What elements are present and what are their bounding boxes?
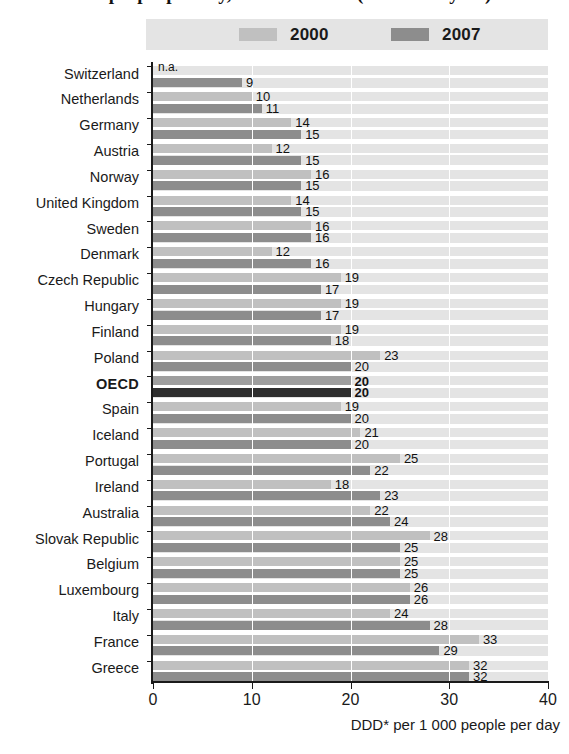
x-tick-label-0: 0 xyxy=(123,691,183,709)
bar-2007 xyxy=(153,181,301,190)
category-label-sweden: Sweden xyxy=(0,221,139,237)
bar-2000 xyxy=(153,144,272,153)
bar-2007 xyxy=(153,595,410,604)
bar-value-label-2007: 23 xyxy=(384,488,398,503)
bar-value-label-2007: 25 xyxy=(404,540,418,555)
bar-value-label-2007: 25 xyxy=(404,566,418,581)
x-tick-0 xyxy=(153,683,154,689)
bar-2007 xyxy=(153,491,380,500)
category-label-ireland: Ireland xyxy=(0,479,139,495)
x-tick-40 xyxy=(548,683,549,689)
gridline-10 xyxy=(252,62,253,682)
bar-value-label-2007: 26 xyxy=(414,592,428,607)
bar-2007 xyxy=(153,104,262,113)
category-label-italy: Italy xyxy=(0,608,139,624)
bar-2000 xyxy=(153,428,360,437)
bar-value-label-2000: 19 xyxy=(345,270,359,285)
bar-value-label-2007: 20 xyxy=(355,437,369,452)
bar-2007 xyxy=(153,233,311,242)
bar-value-label-2007: 16 xyxy=(315,256,329,271)
category-label-netherlands: Netherlands xyxy=(0,91,139,107)
x-tick-20 xyxy=(351,683,352,689)
bar-2000 xyxy=(153,454,400,463)
bar-2000 xyxy=(153,583,410,592)
bar-value-label-2007: 15 xyxy=(305,178,319,193)
bar-value-label-2007: 15 xyxy=(305,204,319,219)
bar-2000 xyxy=(153,351,380,360)
bar-2007 xyxy=(153,621,430,630)
bar-value-label-2000: 25 xyxy=(404,451,418,466)
bar-value-label-2000: 22 xyxy=(374,503,388,518)
chart-title-text: use people per day, 2000 and 2007 (or ne… xyxy=(0,0,569,5)
bar-value-label-2007: 17 xyxy=(325,308,339,323)
bar-value-label-2007: 15 xyxy=(305,127,319,142)
category-label-czech-republic: Czech Republic xyxy=(0,272,139,288)
not-available-label: n.a. xyxy=(158,60,178,74)
category-axis-labels: SwitzerlandNetherlandsGermanyAustriaNorw… xyxy=(0,62,148,682)
category-label-united-kingdom: United Kingdom xyxy=(0,195,139,211)
bar-2000 xyxy=(153,557,400,566)
x-tick-10 xyxy=(252,683,253,689)
bar-2000 xyxy=(153,402,341,411)
bar-2000 xyxy=(153,506,370,515)
bar-2000 xyxy=(153,92,252,101)
bar-2007 xyxy=(153,336,331,345)
category-label-iceland: Iceland xyxy=(0,427,139,443)
bar-2007 xyxy=(153,156,301,165)
bar-2000 xyxy=(153,299,341,308)
category-label-australia: Australia xyxy=(0,505,139,521)
plot-area: n.a.910111415121516151415161612161917191… xyxy=(153,62,548,682)
bar-2007 xyxy=(153,285,321,294)
bar-value-label-2000: 23 xyxy=(384,348,398,363)
chart-title: use people per day, 2000 and 2007 (or ne… xyxy=(0,0,569,14)
bar-value-label-2000: 33 xyxy=(483,632,497,647)
bar-value-label-2007: 29 xyxy=(443,643,457,658)
gridline-30 xyxy=(449,62,450,682)
bar-2007 xyxy=(153,311,321,320)
category-label-oecd: OECD xyxy=(0,376,139,392)
bar-2007 xyxy=(153,259,311,268)
legend-swatch-2007 xyxy=(391,28,429,41)
bar-2000 xyxy=(153,531,430,540)
bar-value-label-2007: 16 xyxy=(315,230,329,245)
bar-value-label-2000: 19 xyxy=(345,296,359,311)
x-axis-title: DDD* per 1 000 people per day xyxy=(0,716,560,733)
chart-legend: 20002007 xyxy=(146,19,548,50)
category-label-luxembourg: Luxembourg xyxy=(0,582,139,598)
category-label-poland: Poland xyxy=(0,350,139,366)
bar-2007 xyxy=(153,130,301,139)
x-tick-label-40: 40 xyxy=(518,691,569,709)
category-label-germany: Germany xyxy=(0,117,139,133)
category-label-slovak-republic: Slovak Republic xyxy=(0,531,139,547)
y-axis-line xyxy=(151,62,153,684)
bar-value-label-2007: 18 xyxy=(335,333,349,348)
bar-2007 xyxy=(153,466,370,475)
bar-2007 xyxy=(153,543,400,552)
bar-2007 xyxy=(153,646,439,655)
bar-value-label-2007: 22 xyxy=(374,463,388,478)
bar-value-label-2007: 11 xyxy=(266,101,280,116)
bar-2000 xyxy=(153,170,311,179)
bar-value-label-2000: 12 xyxy=(276,244,290,259)
bar-2000 xyxy=(153,635,479,644)
bar-value-label-2000: 18 xyxy=(335,477,349,492)
bar-2000 xyxy=(153,221,311,230)
category-label-portugal: Portugal xyxy=(0,453,139,469)
legend-label-2007: 2007 xyxy=(442,25,481,45)
bar-2007 xyxy=(153,569,400,578)
legend-item-2007: 2007 xyxy=(391,19,481,50)
bar-2000 xyxy=(153,480,331,489)
gridline-20 xyxy=(351,62,352,682)
bar-value-label-2000: 12 xyxy=(276,141,290,156)
legend-label-2000: 2000 xyxy=(290,25,329,45)
bar-2007 xyxy=(153,78,242,87)
bar-2000 xyxy=(153,273,341,282)
x-tick-label-30: 30 xyxy=(419,691,479,709)
x-tick-label-20: 20 xyxy=(321,691,381,709)
category-label-belgium: Belgium xyxy=(0,556,139,572)
bar-2000 xyxy=(153,196,291,205)
category-label-norway: Norway xyxy=(0,169,139,185)
bar-value-label-2007: 20 xyxy=(355,411,369,426)
bar-value-label-2007: 20 xyxy=(355,385,369,400)
bar-value-label-2007: 15 xyxy=(305,153,319,168)
